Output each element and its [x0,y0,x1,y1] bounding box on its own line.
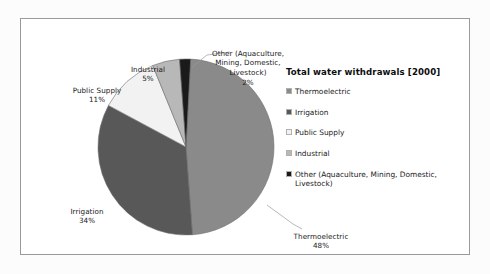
slice-label-irrigation-text: Irrigation [70,207,103,216]
slice-label-irrigation-pct: 34% [49,216,125,226]
slice-label-public-supply-pct: 11% [55,95,139,105]
legend-swatch-icon [286,88,292,94]
slice-label-public-supply-text: Public Supply [73,86,122,95]
slice-label-thermoelectric-pct: 48% [269,241,373,251]
legend-item[interactable]: Public Supply [286,128,466,138]
legend-swatch-icon [286,109,292,115]
slice-label-other-text: Other (Aquaculture, Mining, Domestic, Li… [212,49,284,77]
legend-item[interactable]: Irrigation [286,108,466,118]
chart-legend: Total water withdrawals [2000] Thermoele… [286,67,466,200]
legend-item[interactable]: Thermoelectric [286,87,466,97]
page-background: Other (Aquaculture, Mining, Domestic, Li… [0,0,490,274]
legend-swatch-icon [286,129,292,135]
legend-item-label: Irrigation [295,108,329,118]
legend-item[interactable]: Industrial [286,149,466,159]
slice-label-thermoelectric-text: Thermoelectric [294,232,349,241]
legend-item-label: Public Supply [295,128,344,138]
legend-item-label: Thermoelectric [295,87,351,97]
slice-label-public-supply: Public Supply 11% [55,76,139,115]
slice-label-thermoelectric: Thermoelectric 48% [269,222,373,261]
legend-swatch-icon [286,150,292,156]
chart-frame: Other (Aquaculture, Mining, Domestic, Li… [20,18,470,255]
slice-label-industrial-text: Industrial [131,65,165,74]
legend-items: ThermoelectricIrrigationPublic SupplyInd… [286,87,466,189]
legend-item-label: Other (Aquaculture, Mining, Domestic, Li… [295,170,437,189]
legend-title: Total water withdrawals [2000] [286,67,466,77]
legend-item[interactable]: Other (Aquaculture, Mining, Domestic, Li… [286,170,466,189]
legend-item-label: Industrial [295,149,330,159]
legend-swatch-icon [286,171,292,177]
slice-label-irrigation: Irrigation 34% [49,197,125,236]
